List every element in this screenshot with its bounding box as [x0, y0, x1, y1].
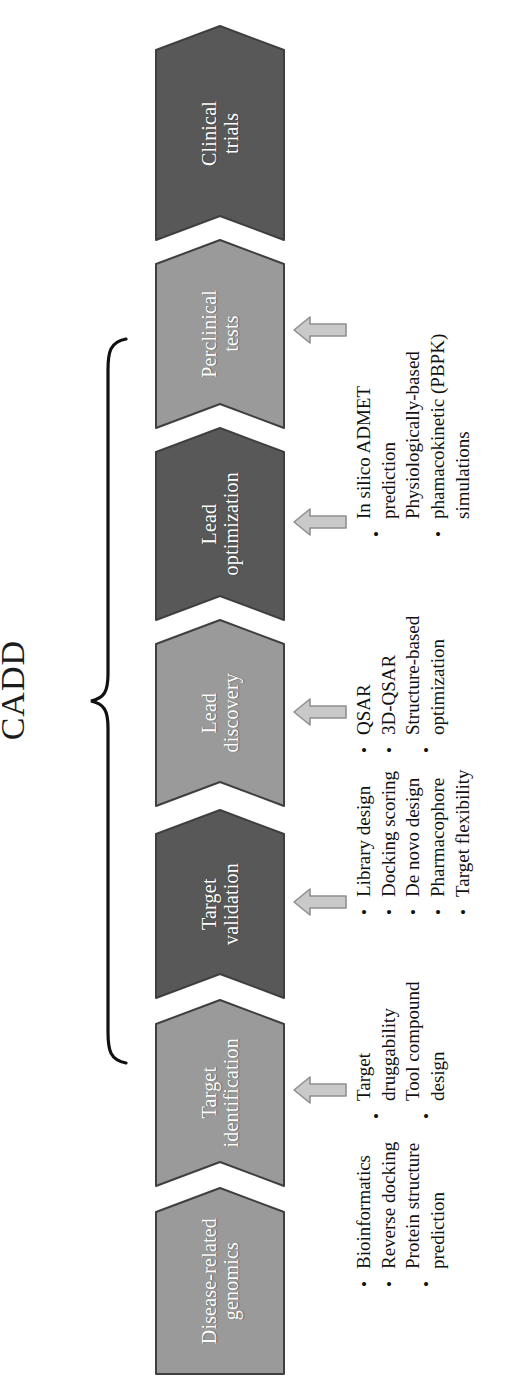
pipeline-stage-label: Disease-related genomics [198, 1218, 243, 1344]
pipeline-stage-label: Target validation [198, 863, 243, 945]
stage-bullets-target-identification: BioinformaticsReverse dockingProtein str… [352, 986, 502, 1286]
pipeline-stage-target-validation[interactable]: Target validation [152, 808, 288, 1000]
cadd-label: CADD [0, 640, 114, 740]
arrow-left-icon-target-validation [292, 887, 348, 917]
pipeline-stage-clinical-trials[interactable]: Clinical trials [152, 24, 288, 242]
pipeline-stage-label: Clinical trials [198, 101, 243, 166]
arrow-left-icon-lead-optimization [292, 507, 348, 537]
arrow-left-icon-perclinical-tests [292, 315, 348, 345]
pipeline-stage-lead-discovery[interactable]: Lead discovery [152, 618, 288, 808]
pipeline-stage-perclinical-tests[interactable]: Perclinical tests [152, 238, 288, 430]
bullet-item: Reverse docking [377, 987, 402, 1286]
bullet-item: Protein structure prediction [401, 987, 450, 1286]
pipeline-stage-label: Target identification [198, 1038, 243, 1147]
pipeline-stage-disease-related-genomics[interactable]: Disease-related genomics [152, 1186, 288, 1376]
figure-canvas: Clinical trialsPerclinical testsLead opt… [0, 0, 515, 1399]
pipeline-stage-label: Perclinical tests [198, 290, 243, 378]
arrow-left-icon-target-identification [292, 1075, 348, 1105]
arrow-left-icon-lead-discovery [292, 697, 348, 727]
pipeline-stage-lead-optimization[interactable]: Lead optimization [152, 426, 288, 622]
pipeline-stage-label: Lead discovery [198, 673, 243, 753]
pipeline-stage-target-identification[interactable]: Target identification [152, 998, 288, 1188]
pipeline-stage-label: Lead optimization [198, 472, 243, 576]
cadd-pipeline: Clinical trialsPerclinical testsLead opt… [152, 24, 288, 1376]
bullet-item: Bioinformatics [352, 987, 377, 1286]
